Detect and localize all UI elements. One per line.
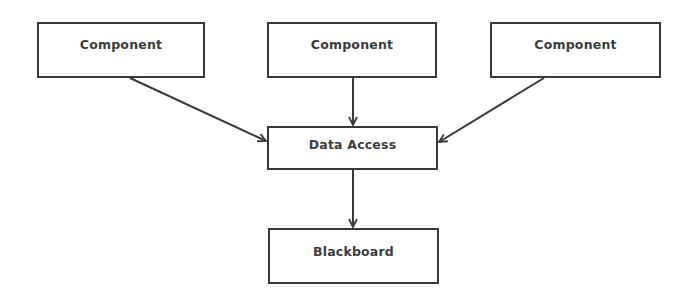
node-label: Component bbox=[80, 37, 162, 52]
edge-component-3-to-data-access bbox=[439, 78, 544, 142]
node-component-1: Component bbox=[37, 22, 205, 78]
node-component-2: Component bbox=[267, 22, 437, 78]
node-label: Component bbox=[311, 37, 393, 52]
node-blackboard: Blackboard bbox=[268, 228, 439, 284]
node-data-access: Data Access bbox=[267, 126, 438, 170]
edge-component-1-to-data-access bbox=[130, 78, 266, 141]
node-label: Blackboard bbox=[313, 244, 394, 259]
node-label: Component bbox=[534, 37, 616, 52]
node-label: Data Access bbox=[309, 137, 397, 152]
node-component-3: Component bbox=[490, 22, 661, 78]
